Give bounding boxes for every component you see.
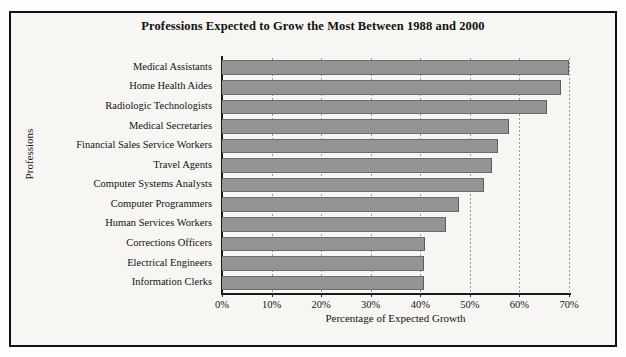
y-tick-label: Medical Assistants <box>0 61 212 72</box>
bar-row <box>222 136 569 156</box>
bar <box>222 100 547 115</box>
x-tick-label: 70% <box>547 299 591 310</box>
bar <box>222 276 424 291</box>
x-tick-label: 0% <box>200 299 244 310</box>
chart-title: Professions Expected to Grow the Most Be… <box>0 19 626 34</box>
bar-row <box>222 195 569 215</box>
bar <box>222 217 446 232</box>
bar-row <box>222 176 569 196</box>
bar-row <box>222 254 569 274</box>
gridline <box>569 58 570 293</box>
x-tick-label: 40% <box>398 299 442 310</box>
plot-area: 0%10%20%30%40%50%60%70% Medical Assistan… <box>222 58 569 293</box>
x-tick <box>569 293 570 297</box>
bar <box>222 256 424 271</box>
bar-row <box>222 234 569 254</box>
x-tick <box>371 293 372 297</box>
bar <box>222 178 484 193</box>
y-tick-label: Electrical Engineers <box>0 257 212 268</box>
y-tick-label: Corrections Officers <box>0 237 212 248</box>
bar-row <box>222 273 569 293</box>
x-tick-label: 60% <box>497 299 541 310</box>
y-tick-label: Information Clerks <box>0 276 212 287</box>
bar <box>222 60 569 75</box>
bar-row <box>222 215 569 235</box>
x-tick-label: 20% <box>299 299 343 310</box>
y-tick-label: Radiologic Technologists <box>0 100 212 111</box>
bar-row <box>222 97 569 117</box>
x-tick <box>222 293 223 297</box>
y-tick-label: Medical Secretaries <box>0 120 212 131</box>
x-tick-label: 30% <box>349 299 393 310</box>
x-tick-label: 50% <box>448 299 492 310</box>
x-tick <box>321 293 322 297</box>
y-tick-label: Home Health Aides <box>0 80 212 91</box>
y-tick-label: Computer Programmers <box>0 198 212 209</box>
bar <box>222 139 498 154</box>
bar <box>222 197 459 212</box>
x-tick <box>272 293 273 297</box>
bar-row <box>222 156 569 176</box>
x-axis-title: Percentage of Expected Growth <box>222 312 569 324</box>
x-tick <box>420 293 421 297</box>
bar-row <box>222 78 569 98</box>
y-tick-label: Travel Agents <box>0 159 212 170</box>
y-tick-label: Computer Systems Analysts <box>0 178 212 189</box>
bar-row <box>222 117 569 137</box>
y-tick-label: Human Services Workers <box>0 217 212 228</box>
y-tick-label: Financial Sales Service Workers <box>0 139 212 150</box>
x-tick <box>470 293 471 297</box>
bar <box>222 237 425 252</box>
bar <box>222 80 561 95</box>
bar <box>222 119 509 134</box>
x-tick <box>519 293 520 297</box>
x-tick-label: 10% <box>250 299 294 310</box>
bar <box>222 158 492 173</box>
chart-figure: Professions Expected to Grow the Most Be… <box>0 0 626 357</box>
y-axis-labels: Medical AssistantsHome Health AidesRadio… <box>0 58 216 293</box>
bar-row <box>222 58 569 78</box>
